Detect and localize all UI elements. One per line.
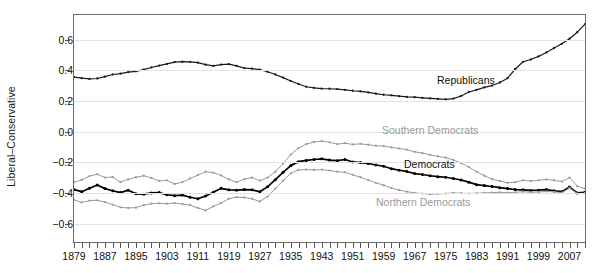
y-axis-title: Liberal–Conservative bbox=[0, 0, 22, 273]
x-tick-mark-1955 bbox=[368, 243, 369, 248]
x-tick-label-10: 1959 bbox=[372, 250, 395, 262]
x-tick-label-5: 1919 bbox=[217, 250, 240, 262]
x-tick-mark-2003 bbox=[554, 243, 555, 248]
x-tick-label-13: 1983 bbox=[465, 250, 488, 262]
x-tick-mark-1977 bbox=[453, 243, 454, 248]
x-tick-mark-1971 bbox=[430, 243, 431, 248]
x-tick-mark-1995 bbox=[523, 243, 524, 248]
series-republicans bbox=[74, 23, 585, 100]
x-tick-mark-1943 bbox=[322, 243, 323, 248]
y-axis-ticks: 0.60.40.20.0−0.2−0.4−0.6 bbox=[28, 0, 73, 273]
x-tick-mark-1883 bbox=[89, 243, 90, 248]
x-tick-mark-1939 bbox=[306, 243, 307, 248]
x-tick-mark-1889 bbox=[113, 243, 114, 248]
x-tick-mark-1887 bbox=[105, 243, 106, 248]
x-tick-mark-1937 bbox=[299, 243, 300, 248]
x-tick-mark-1891 bbox=[120, 243, 121, 248]
series-label-southern-democrats: Southern Democrats bbox=[382, 124, 478, 136]
x-tick-label-8: 1943 bbox=[310, 250, 333, 262]
x-tick-mark-2005 bbox=[562, 243, 563, 248]
x-tick-label-2: 1895 bbox=[124, 250, 147, 262]
x-tick-mark-1969 bbox=[422, 243, 423, 248]
x-tick-mark-1899 bbox=[151, 243, 152, 248]
x-tick-mark-1979 bbox=[461, 243, 462, 248]
x-tick-mark-1947 bbox=[337, 243, 338, 248]
y-tick-mark-2 bbox=[65, 101, 70, 102]
x-tick-mark-1893 bbox=[128, 243, 129, 248]
x-tick-label-3: 1903 bbox=[155, 250, 178, 262]
x-tick-mark-1961 bbox=[391, 243, 392, 248]
y-tick-mark-5 bbox=[65, 193, 70, 194]
x-tick-mark-1957 bbox=[376, 243, 377, 248]
x-tick-mark-1931 bbox=[275, 243, 276, 248]
x-tick-mark-1981 bbox=[469, 243, 470, 248]
x-tick-mark-1925 bbox=[252, 243, 253, 248]
x-tick-mark-2001 bbox=[546, 243, 547, 248]
gridline-y-6 bbox=[74, 224, 585, 225]
x-tick-mark-1985 bbox=[484, 243, 485, 248]
gridline-y-4 bbox=[74, 162, 585, 163]
x-tick-mark-1993 bbox=[515, 243, 516, 248]
y-tick-mark-3 bbox=[65, 132, 70, 133]
x-axis-ticks: 1879188718951903191119191927193519431951… bbox=[73, 243, 586, 273]
x-tick-mark-1973 bbox=[438, 243, 439, 248]
x-tick-label-9: 1951 bbox=[341, 250, 364, 262]
x-tick-mark-1967 bbox=[415, 243, 416, 248]
series-label-northern-democrats: Northern Democrats bbox=[376, 196, 471, 208]
x-tick-mark-1989 bbox=[500, 243, 501, 248]
y-tick-mark-1 bbox=[65, 70, 70, 71]
gridline-y-5 bbox=[74, 193, 585, 194]
gridline-y-0 bbox=[74, 40, 585, 41]
x-tick-mark-1895 bbox=[136, 243, 137, 248]
x-tick-label-6: 1927 bbox=[248, 250, 271, 262]
x-tick-mark-1903 bbox=[167, 243, 168, 248]
x-tick-mark-1933 bbox=[283, 243, 284, 248]
x-tick-mark-1915 bbox=[213, 243, 214, 248]
x-tick-label-4: 1911 bbox=[187, 250, 210, 262]
series-label-democrats: Democrats bbox=[404, 158, 455, 170]
x-tick-label-14: 1991 bbox=[496, 250, 519, 262]
y-tick-mark-6 bbox=[65, 224, 70, 225]
x-tick-label-11: 1967 bbox=[403, 250, 426, 262]
gridline-y-1 bbox=[74, 70, 585, 71]
x-tick-label-12: 1975 bbox=[434, 250, 457, 262]
x-tick-mark-1929 bbox=[268, 243, 269, 248]
x-tick-mark-1949 bbox=[345, 243, 346, 248]
x-tick-mark-1999 bbox=[539, 243, 540, 248]
x-tick-mark-1941 bbox=[314, 243, 315, 248]
x-tick-mark-1917 bbox=[221, 243, 222, 248]
x-tick-mark-1907 bbox=[182, 243, 183, 248]
series-southern-democrats bbox=[74, 140, 585, 190]
x-tick-mark-1921 bbox=[237, 243, 238, 248]
x-tick-mark-1881 bbox=[82, 243, 83, 248]
gridline-y-2 bbox=[74, 101, 585, 102]
gridline-y-3 bbox=[74, 132, 585, 133]
x-tick-mark-1997 bbox=[531, 243, 532, 248]
x-tick-mark-1901 bbox=[159, 243, 160, 248]
x-tick-mark-1919 bbox=[229, 243, 230, 248]
x-tick-mark-1923 bbox=[244, 243, 245, 248]
plot-area bbox=[73, 14, 586, 243]
x-tick-mark-1935 bbox=[291, 243, 292, 248]
x-tick-mark-1987 bbox=[492, 243, 493, 248]
x-tick-mark-1885 bbox=[97, 243, 98, 248]
x-tick-mark-1959 bbox=[384, 243, 385, 248]
x-tick-mark-1983 bbox=[477, 243, 478, 248]
y-tick-mark-0 bbox=[65, 40, 70, 41]
x-tick-mark-2011 bbox=[585, 243, 586, 248]
x-tick-mark-1909 bbox=[190, 243, 191, 248]
x-tick-mark-1905 bbox=[175, 243, 176, 248]
x-tick-label-1: 1887 bbox=[93, 250, 116, 262]
x-tick-mark-1927 bbox=[260, 243, 261, 248]
x-tick-mark-1963 bbox=[399, 243, 400, 248]
series-northern-democrats bbox=[74, 168, 585, 211]
x-tick-mark-1975 bbox=[446, 243, 447, 248]
x-tick-mark-1991 bbox=[508, 243, 509, 248]
x-tick-mark-1897 bbox=[144, 243, 145, 248]
series-lines bbox=[74, 15, 585, 242]
x-tick-mark-1911 bbox=[198, 243, 199, 248]
y-tick-mark-4 bbox=[65, 162, 70, 163]
x-tick-mark-2009 bbox=[577, 243, 578, 248]
x-tick-mark-2007 bbox=[570, 243, 571, 248]
x-tick-label-0: 1879 bbox=[62, 250, 85, 262]
